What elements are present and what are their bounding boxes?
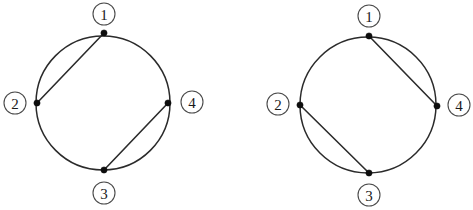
node-label-4: 4: [455, 98, 463, 114]
node-dot-3: [101, 167, 107, 173]
node-label-4: 4: [188, 95, 196, 111]
node-dot-1: [101, 30, 107, 36]
node-dot-4: [165, 100, 171, 106]
left-diagram-canvas: 1234: [0, 0, 237, 210]
chord-2-3: [300, 105, 369, 173]
node-dot-2: [297, 102, 303, 108]
chord-3-4: [104, 103, 168, 170]
right-chord-diagram: 1234: [236, 0, 473, 210]
node-label-3: 3: [365, 188, 373, 204]
node-group: [34, 30, 171, 173]
node-label-2: 2: [274, 97, 282, 113]
circle-outline: [36, 36, 170, 170]
node-dot-3: [366, 170, 372, 176]
node-dot-2: [34, 100, 40, 106]
node-group: [297, 33, 440, 176]
node-dot-1: [366, 33, 372, 39]
node-label-2: 2: [11, 96, 19, 112]
circle-outline: [300, 37, 436, 173]
right-diagram-canvas: 1234: [236, 0, 473, 210]
node-label-3: 3: [100, 186, 108, 202]
chord-1-2: [37, 33, 104, 103]
node-dot-4: [434, 103, 440, 109]
node-label-1: 1: [365, 9, 373, 25]
chord-diagram-figure: 1234 1234: [0, 0, 473, 210]
node-label-1: 1: [100, 7, 108, 23]
left-chord-diagram: 1234: [0, 0, 237, 210]
